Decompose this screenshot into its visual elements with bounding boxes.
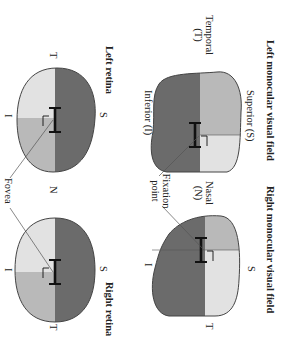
right-visual-field-title: Right monocular visual field [265,186,276,313]
temporal-label-line2: (T) [193,10,204,60]
diagram-stage: Left monocular visual field Right monocu… [0,0,287,352]
fovea-label: Fovea [3,178,14,204]
nasal-retina-label: N [48,186,59,194]
fixation-label-line1: Fixation [161,168,172,214]
right-field-inferior-label: I [143,263,154,267]
nasal-label-line2: (N) [193,178,204,208]
left-retina-superior-label: S [98,112,109,118]
left-retina-title: Left retina [104,46,115,94]
temporal-label: Temporal (T) [193,10,215,60]
temporal-label-line1: Temporal [204,10,215,60]
inferior-label: Inferior (I) [143,90,154,135]
right-retina-inferior-label: I [3,268,14,272]
right-field-temporal-label: T [204,323,215,329]
nasal-label-line1: Nasal [204,178,215,208]
left-retina-inferior-label: I [3,114,14,118]
fixation-label-line2: point [150,168,161,214]
nasal-label: Nasal (N) [193,178,215,208]
right-visual-field-shape [135,205,257,330]
left-visual-field-title: Left monocular visual field [265,40,276,161]
right-field-superior-label: S [246,266,257,272]
right-retina-title: Right retina [104,282,115,336]
superior-label: Superior (S) [245,90,256,142]
right-retina-superior-label: S [98,266,109,272]
right-retina-temporal-label: T [48,324,59,330]
fixation-point-label: Fixation point [150,168,172,214]
diagram-graphics [0,0,287,352]
left-retina-temporal-label: T [48,52,59,58]
